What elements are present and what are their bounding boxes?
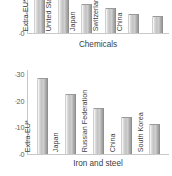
bar-cap [106, 8, 115, 9]
category-label: Extra-EU* [24, 120, 31, 152]
chart-panel-chemicals: 50 0 Extra-EU* [0, 0, 172, 54]
plot-area-iron-and-steel: 30 20 10 0 [0, 62, 172, 176]
two-panel-bar-figure: 50 0 Extra-EU* [0, 0, 172, 176]
bar-group-iron-and-steel: Extra-EU* Japan Russian Federation [28, 70, 169, 154]
bar-cap [150, 124, 159, 125]
bar-cap [38, 78, 47, 79]
category-label: Russian Federation [80, 90, 87, 152]
bar-cap [129, 14, 138, 15]
category-label: China [109, 133, 116, 152]
category-label: Extra-EU* [22, 0, 29, 31]
y-tick-label: 30 [17, 71, 25, 80]
chart-title-iron-and-steel: Iron and steel [27, 159, 169, 168]
category-label: United States [45, 0, 52, 31]
category-label: Switzerland [92, 0, 99, 31]
y-tick-iron: 20 [17, 98, 28, 105]
bar [152, 16, 163, 33]
y-tick-chemicals: 0 [21, 30, 28, 37]
chart-title-chemicals: Chemicals [27, 40, 169, 49]
chart-panel-iron-and-steel: 30 20 10 0 [0, 62, 172, 176]
plot-area-chemicals: 50 0 Extra-EU* [0, 0, 172, 54]
bar [93, 108, 104, 154]
bar [128, 14, 139, 33]
bar-slot [146, 0, 170, 33]
bar-cap [122, 117, 131, 118]
axes-iron-and-steel: 30 20 10 0 [27, 70, 169, 155]
y-tick-iron: 30 [17, 72, 28, 79]
bar-cap [94, 108, 103, 109]
axes-chemicals: 50 0 Extra-EU* [27, 0, 169, 34]
x-axis-line-chemicals [27, 33, 169, 34]
category-label: Japan [69, 11, 76, 31]
y-tick-mark [15, 75, 17, 76]
category-label: South Korea [137, 112, 144, 152]
bar [121, 117, 132, 154]
y-tick-mark [15, 128, 17, 129]
category-label: China [116, 12, 123, 31]
bar [149, 124, 160, 154]
bar [65, 94, 76, 154]
y-tick-mark [19, 154, 21, 155]
bar-slot: China [122, 0, 146, 33]
y-tick-mark [15, 101, 17, 102]
bar-slot: South Korea [141, 70, 169, 154]
y-tick-mark [19, 33, 21, 34]
bar-cap [153, 16, 162, 17]
bar [37, 78, 48, 154]
y-tick-iron: 0 [21, 151, 28, 158]
bar-cap [66, 94, 75, 95]
bar-group-chemicals: Extra-EU* United States Japan [28, 0, 169, 33]
y-tick-label: 20 [17, 97, 25, 106]
category-label: Japan [52, 132, 59, 152]
x-axis-line-iron [27, 154, 169, 155]
